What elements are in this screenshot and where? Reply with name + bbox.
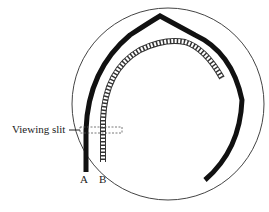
track-b-label: B	[99, 173, 106, 185]
track-a-label: A	[80, 173, 88, 185]
viewing-slit-label: Viewing slit	[12, 123, 65, 135]
outer-disc	[72, 8, 264, 200]
track-b	[103, 41, 222, 162]
diagram-canvas	[0, 0, 269, 212]
